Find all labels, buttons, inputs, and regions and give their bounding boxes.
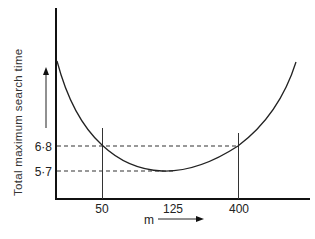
y-tick-5-7: 5·7 xyxy=(35,165,53,179)
x-tick-400: 400 xyxy=(229,202,249,216)
search-time-curve xyxy=(57,61,296,171)
y-tick-6-8: 6·8 xyxy=(35,140,53,154)
y-axis-label: Total maximum search time xyxy=(12,49,24,196)
right-arrow-icon xyxy=(196,216,204,222)
x-tick-125: 125 xyxy=(163,202,183,216)
chart: 6·8 5·7 50 125 400 m Total maximum searc… xyxy=(0,0,315,239)
up-arrow-icon xyxy=(43,67,49,75)
x-axis-label: m xyxy=(144,213,154,227)
x-tick-50: 50 xyxy=(95,202,109,216)
